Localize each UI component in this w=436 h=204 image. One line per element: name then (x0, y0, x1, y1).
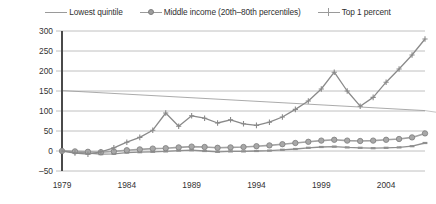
circle-marker-icon (357, 138, 362, 143)
x-axis-tick-label: 1999 (312, 181, 331, 189)
data-series-layer (59, 36, 427, 157)
circle-marker-icon (202, 144, 207, 149)
series-line (62, 39, 425, 154)
circle-marker-icon (140, 7, 162, 17)
plus-marker-icon (318, 7, 340, 17)
circle-marker-icon (396, 136, 401, 141)
circle-marker-icon (293, 140, 298, 145)
plus-marker-icon (124, 139, 129, 145)
circle-marker-icon (150, 146, 155, 151)
plus-marker-icon (241, 121, 246, 127)
legend-item-lowest-quintile[interactable]: Lowest quintile (45, 7, 122, 17)
circle-marker-icon (176, 145, 181, 150)
legend-label-top-1-percent: Top 1 percent (342, 8, 391, 16)
y-axis-tick-label: 200 (7, 67, 53, 75)
circle-marker-icon (383, 137, 388, 142)
income-growth-line-chart: Lowest quintile Middle income (20th–80th… (0, 0, 436, 204)
circle-marker-icon (228, 145, 233, 150)
plus-marker-icon (215, 120, 220, 126)
circle-marker-icon (370, 138, 375, 143)
x-axis-tick-label: 1984 (117, 181, 136, 189)
chart-legend: Lowest quintile Middle income (20th–80th… (0, 4, 436, 20)
x-axis-tick-label: 2004 (377, 181, 396, 189)
circle-marker-icon (267, 143, 272, 148)
circle-marker-icon (189, 144, 194, 149)
circle-marker-icon (215, 145, 220, 150)
plus-marker-icon (137, 135, 142, 141)
circle-marker-icon (254, 144, 259, 149)
y-axis-tick-label: 100 (7, 107, 53, 115)
plot-area: 300250200150100500–50 197919841989199419… (0, 22, 436, 204)
x-axis-tick-label: 1989 (182, 181, 201, 189)
y-axis-tick-label: 0 (7, 147, 53, 155)
x-axis-tick-label: 1979 (53, 181, 72, 189)
circle-marker-icon (319, 138, 324, 143)
dash-marker-icon (45, 7, 67, 17)
plus-marker-icon (202, 115, 207, 121)
y-axis-tick-label: 50 (7, 127, 53, 135)
x-axis-tick-label: 1994 (247, 181, 266, 189)
circle-marker-icon (422, 131, 427, 136)
y-axis-tick-label: 250 (7, 47, 53, 55)
legend-label-lowest-quintile: Lowest quintile (69, 8, 122, 16)
plus-marker-icon (254, 123, 259, 129)
legend-item-top-1-percent[interactable]: Top 1 percent (318, 7, 391, 17)
plus-marker-icon (267, 119, 272, 125)
scan-fold-artifact-line (62, 91, 436, 113)
legend-label-middle-income: Middle income (20th–80th percentiles) (164, 8, 301, 16)
circle-marker-icon (306, 139, 311, 144)
y-axis-tick-label: 150 (7, 87, 53, 95)
circle-marker-icon (409, 135, 414, 140)
circle-marker-icon (241, 144, 246, 149)
circle-marker-icon (163, 146, 168, 151)
circle-marker-icon (280, 142, 285, 147)
plus-marker-icon (280, 114, 285, 120)
circle-marker-icon (137, 147, 142, 152)
plus-marker-icon (228, 117, 233, 123)
circle-marker-icon (332, 137, 337, 142)
plot-canvas (0, 22, 436, 204)
y-axis-tick-label: 300 (7, 27, 53, 35)
circle-marker-icon (345, 138, 350, 143)
y-axis-tick-label: –50 (7, 167, 53, 175)
circle-marker-icon (124, 148, 129, 153)
legend-item-middle-income[interactable]: Middle income (20th–80th percentiles) (140, 7, 301, 17)
